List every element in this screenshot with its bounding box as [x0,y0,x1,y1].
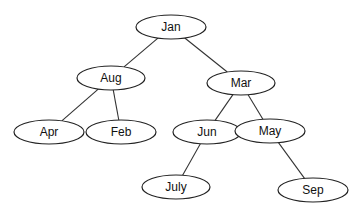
node-may: May [235,119,305,143]
node-label: Apr [40,125,59,139]
nodes-group: JanAugMarAprFebJunMayJulySep [14,15,348,202]
edge-jan-mar [185,38,227,72]
node-label: Mar [231,76,252,90]
node-aug: Aug [77,66,145,90]
node-jan: Jan [136,15,206,39]
node-jun: Jun [173,120,241,144]
node-sep: Sep [278,178,348,202]
edge-jan-aug [124,38,158,67]
node-label: Jun [197,125,216,139]
node-label: May [259,124,282,138]
edges-group [62,38,305,178]
node-apr: Apr [14,120,84,144]
edge-aug-feb [113,90,119,120]
edge-aug-apr [62,89,98,121]
node-label: Aug [100,71,121,85]
node-label: Sep [302,183,324,197]
tree-diagram: JanAugMarAprFebJunMayJulySep [0,0,362,212]
edge-may-sep [278,143,304,179]
edge-mar-may [248,95,263,120]
node-mar: Mar [207,71,275,95]
node-label: Jan [161,20,180,34]
node-feb: Feb [86,120,156,144]
node-label: Feb [111,125,132,139]
node-label: July [165,180,186,194]
edge-mar-jun [215,95,233,121]
node-july: July [142,175,210,199]
edge-jun-july [183,144,201,175]
